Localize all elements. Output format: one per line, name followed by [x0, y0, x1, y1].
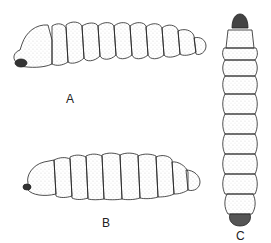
larva-c-tail	[229, 214, 250, 226]
larva-a-mandible	[15, 59, 27, 67]
larva-b-mandible	[23, 184, 31, 190]
panel-label-b: B	[102, 216, 110, 230]
larva-b-drawing	[23, 153, 200, 200]
larva-c-drawing	[223, 14, 258, 226]
larva-illustration	[0, 0, 271, 243]
panel-label-a: A	[66, 92, 74, 106]
larva-c-head	[232, 14, 248, 28]
panel-label-c: C	[236, 229, 245, 243]
larva-a-tail	[194, 37, 206, 54]
larva-b-tail	[186, 170, 200, 191]
larva-b-head	[28, 160, 56, 195]
larva-a-drawing	[14, 22, 206, 67]
